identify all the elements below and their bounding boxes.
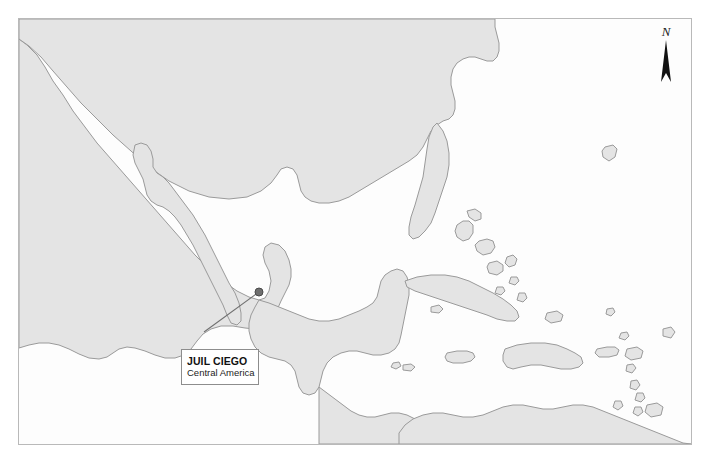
location-callout-box[interactable]: JUIL CIEGO Central America [181, 349, 259, 385]
land-bahamas-3 [487, 261, 503, 275]
map-pin-dot-icon[interactable] [255, 288, 263, 296]
land-lesser-antilles-2 [625, 347, 643, 360]
map-frame: N JUIL CIEGO Central America [18, 18, 692, 445]
map-screenshot: N JUIL CIEGO Central America [0, 0, 708, 471]
land-jamaica [445, 351, 475, 363]
callout-title: JUIL CIEGO [187, 355, 253, 367]
map-canvas[interactable] [19, 19, 691, 444]
land-trinidad [645, 403, 663, 417]
land-puerto-rico [595, 347, 619, 357]
land-bahamas-4 [505, 255, 517, 267]
land-turks-caicos [545, 311, 563, 323]
callout-subtitle: Central America [187, 367, 253, 379]
